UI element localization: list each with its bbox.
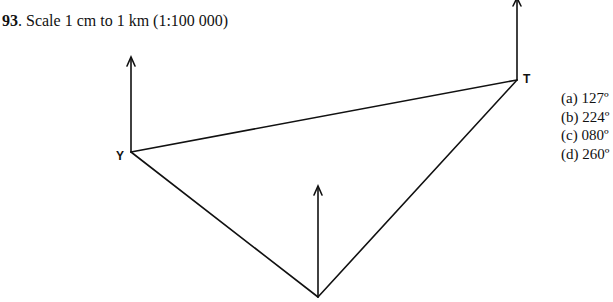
line-bottom-t <box>318 80 517 297</box>
option-a: (a) 127º <box>561 89 609 108</box>
option-c: (c) 080º <box>561 126 609 145</box>
bearing-diagram: Y T <box>0 0 613 302</box>
north-arrow-y <box>127 57 135 152</box>
point-label-t: T <box>523 72 531 86</box>
line-y-t <box>131 80 517 152</box>
north-arrow-bottom <box>314 186 322 297</box>
answer-options: (a) 127º (b) 224º (c) 080º (d) 260º <box>561 89 609 163</box>
north-arrow-t <box>513 0 521 80</box>
option-d: (d) 260º <box>561 145 609 164</box>
point-label-y: Y <box>116 149 124 163</box>
option-b: (b) 224º <box>561 108 609 127</box>
line-y-bottom <box>131 152 318 297</box>
